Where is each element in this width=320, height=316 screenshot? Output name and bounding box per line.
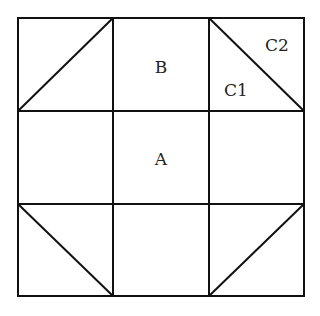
quilt-diagram: B A C1 C2 [0,0,320,316]
diagonal-bottom-left [18,204,113,296]
diagonal-bottom-right [209,204,304,296]
label-b: B [155,57,168,77]
label-c2: C2 [265,35,289,55]
label-c1: C1 [224,80,248,100]
label-a: A [154,149,168,169]
diagonal-top-left [18,18,113,111]
